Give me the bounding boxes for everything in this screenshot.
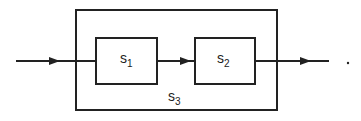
block-s1-label: s1 bbox=[120, 50, 133, 69]
output-arrowhead-icon bbox=[300, 57, 311, 65]
trailing-dot bbox=[347, 62, 349, 64]
input-arrowhead-icon bbox=[49, 57, 60, 65]
outer-block-s3-label: s3 bbox=[168, 88, 181, 107]
connector-arrowhead-icon bbox=[180, 57, 191, 65]
block-s2-label: s2 bbox=[217, 50, 230, 69]
